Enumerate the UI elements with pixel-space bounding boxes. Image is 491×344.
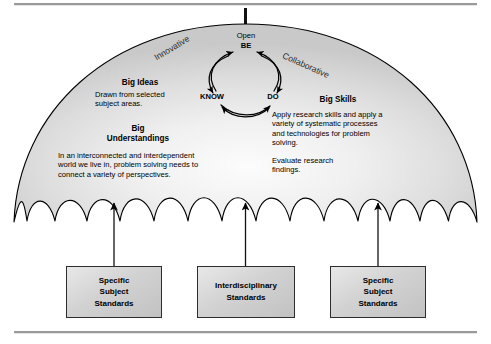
umbrella-diagram: Innovative Collaborative Open BE KNOW DO… <box>0 0 491 344</box>
big-skills-body-primary: Apply research skills and apply a variet… <box>272 110 412 147</box>
standards-box-left[interactable]: Specific Subject Standards <box>66 266 162 318</box>
cycle-label-open: Open <box>228 31 264 40</box>
big-ideas-body: Drawn from selected subject areas. <box>95 90 205 109</box>
big-understandings-body: In an interconnected and interdependent … <box>58 151 248 179</box>
standards-box-center[interactable]: Interdisciplinary Standards <box>197 266 295 318</box>
cycle-label-do: DO <box>258 92 288 101</box>
big-skills-heading: Big Skills <box>300 95 376 105</box>
big-ideas-heading: Big Ideas <box>95 78 185 88</box>
cycle-label-be: BE <box>228 41 264 50</box>
big-understandings-heading: Big Understandings <box>78 124 198 144</box>
standards-box-right[interactable]: Specific Subject Standards <box>330 266 426 318</box>
big-skills-body-secondary: Evaluate research findings. <box>272 156 392 175</box>
umbrella-pole-tip <box>244 8 247 24</box>
